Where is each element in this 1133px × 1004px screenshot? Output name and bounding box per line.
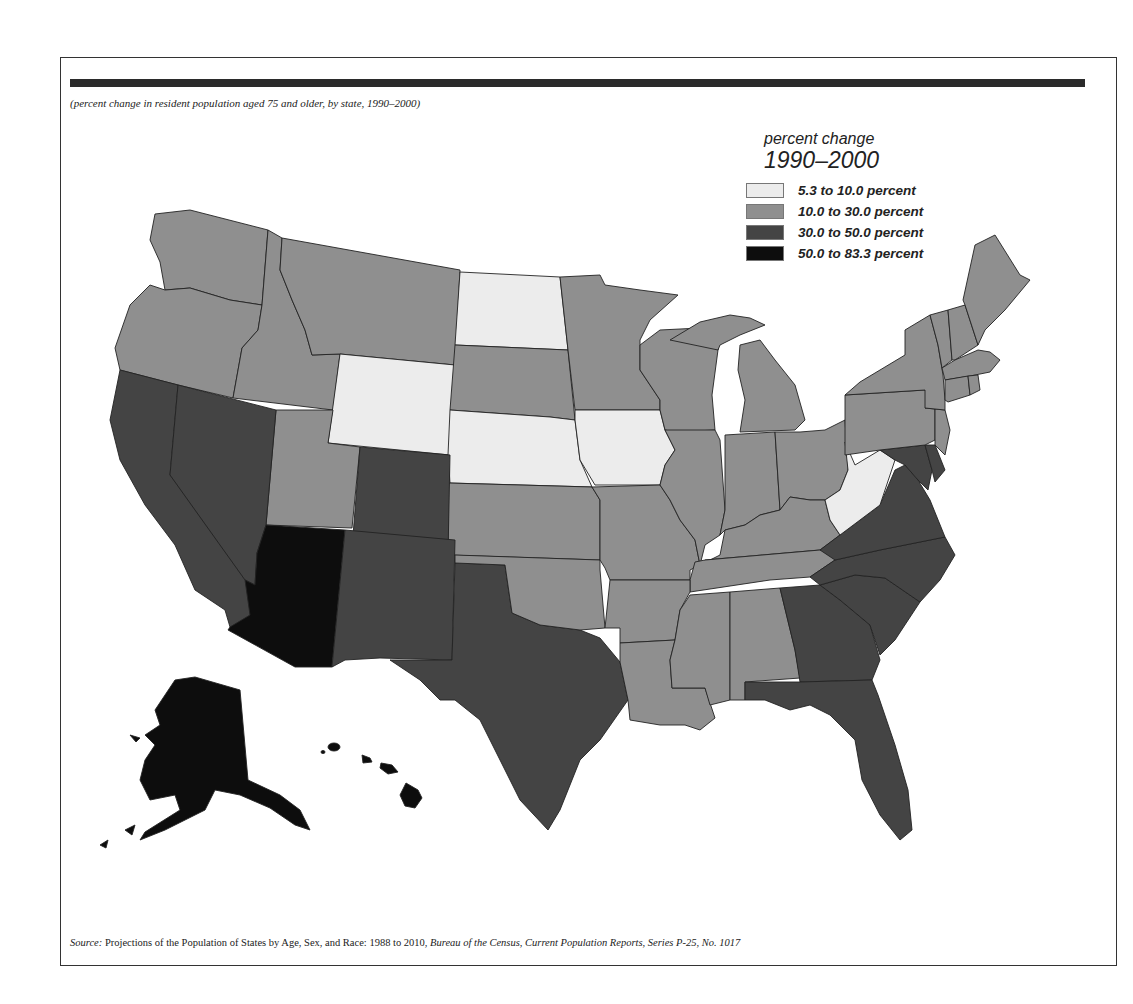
source-prefix: Source: [70,937,102,948]
alaska-island [100,735,140,848]
state-WY [328,354,455,455]
legend-label: 50.0 to 83.3 percent [798,246,923,261]
state-PA [845,390,935,455]
state-KS [448,483,600,560]
legend-label: 30.0 to 50.0 percent [798,225,923,240]
legend-item: 30.0 to 50.0 percent [746,224,966,241]
state-CT [945,376,970,402]
legend-title-line2: 1990–2000 [746,148,966,172]
legend-label: 5.3 to 10.0 percent [798,183,916,198]
state-HI [321,743,422,808]
legend-title-line1: percent change [746,130,966,148]
legend-items: 5.3 to 10.0 percent 10.0 to 30.0 percent… [746,182,966,262]
source-text: Projections of the Population of States … [102,937,430,948]
state-ND [455,272,568,350]
legend-swatch [746,183,784,198]
legend-item: 50.0 to 83.3 percent [746,245,966,262]
state-NM [332,530,455,667]
legend-item: 10.0 to 30.0 percent [746,203,966,220]
legend-swatch [746,246,784,261]
source-note: Source: Projections of the Population of… [70,937,740,948]
legend-swatch [746,204,784,219]
state-ME [963,235,1030,345]
state-AK [140,677,310,840]
source-italic: Bureau of the Census, Current Population… [430,937,740,948]
state-RI [968,375,980,395]
state-NE [448,410,592,487]
legend-swatch [746,225,784,240]
legend-label: 10.0 to 30.0 percent [798,204,923,219]
map-legend: percent change 1990–2000 5.3 to 10.0 per… [746,130,966,266]
state-SD [450,345,575,420]
state-IA [575,410,675,485]
legend-item: 5.3 to 10.0 percent [746,182,966,199]
state-FL [745,680,912,840]
